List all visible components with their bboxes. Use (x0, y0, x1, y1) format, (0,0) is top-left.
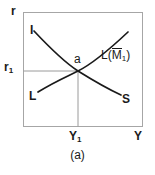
investment-curve-label: I (30, 24, 33, 36)
equilibrium-point-label: a (74, 53, 81, 65)
y-tick-label-r1-base: r (4, 60, 9, 74)
y-tick-label-r1-subscript: 1 (9, 66, 13, 75)
plot-frame (24, 13, 143, 127)
x-axis-label: Y (134, 130, 142, 142)
money-supply-label-m-bar: M (112, 48, 122, 61)
liquidity-curve-label: L (29, 90, 36, 102)
money-supply-curve-label: L(M1) (101, 48, 130, 61)
x-tick-label-y1-base: Y (69, 129, 77, 143)
lm-curve (38, 32, 128, 92)
saving-curve-label: S (122, 93, 130, 105)
figure-caption: (a) (0, 149, 155, 161)
x-tick-label-y1-subscript: 1 (77, 135, 81, 144)
y-tick-label-r1: r1 (4, 61, 13, 73)
figure-container: r Y r1 Y1 I L S a L(M1) (a) (0, 0, 155, 175)
money-supply-label-subscript: 1 (122, 54, 126, 63)
money-supply-label-suffix: ) (126, 48, 130, 62)
y-axis-label: r (11, 5, 16, 17)
money-supply-label-prefix: L( (101, 48, 112, 62)
x-tick-label-y1: Y1 (69, 130, 81, 142)
